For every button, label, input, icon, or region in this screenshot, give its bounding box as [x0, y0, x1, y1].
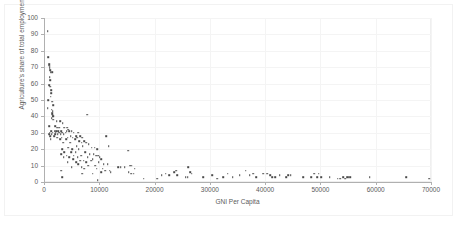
- data-point: [67, 162, 69, 164]
- data-point: [77, 132, 79, 134]
- data-point: [337, 178, 339, 180]
- data-point: [131, 165, 133, 167]
- data-point: [272, 176, 274, 178]
- data-point: [245, 170, 247, 172]
- scatter-chart: 0102030405060708090100 01000020000300004…: [0, 0, 457, 227]
- data-point: [232, 176, 234, 178]
- y-tick-mark: [41, 100, 44, 101]
- data-point: [97, 180, 99, 182]
- y-tick-label: 40: [14, 113, 38, 120]
- gridline-vertical: [431, 18, 432, 182]
- data-point: [61, 148, 63, 150]
- gridline-horizontal: [44, 18, 431, 19]
- data-point: [85, 162, 87, 164]
- data-point: [47, 107, 49, 109]
- data-point: [77, 157, 79, 159]
- data-point: [302, 176, 304, 178]
- data-point: [185, 176, 187, 178]
- y-tick-mark: [41, 18, 44, 19]
- data-point: [59, 121, 61, 123]
- data-point: [61, 176, 63, 178]
- x-tick-mark: [320, 182, 321, 185]
- data-point: [120, 166, 122, 168]
- data-point: [71, 148, 73, 150]
- data-point: [117, 166, 119, 168]
- data-point: [173, 171, 175, 173]
- data-point: [65, 132, 67, 134]
- gridline-horizontal: [44, 133, 431, 134]
- data-point: [49, 135, 51, 137]
- data-point: [314, 173, 316, 175]
- data-point: [76, 145, 78, 147]
- x-tick-label: 70000: [422, 187, 440, 194]
- data-point: [105, 170, 107, 172]
- data-point: [48, 99, 50, 101]
- plot-area: [44, 18, 431, 182]
- data-point: [227, 173, 229, 175]
- gridline-horizontal: [44, 34, 431, 35]
- data-point: [60, 170, 62, 172]
- data-point: [78, 148, 80, 150]
- data-point: [90, 160, 92, 162]
- data-point: [52, 116, 54, 118]
- gridline-vertical: [320, 18, 321, 182]
- data-point: [56, 137, 58, 139]
- data-point: [76, 137, 78, 139]
- data-point: [103, 163, 105, 165]
- data-point: [50, 89, 52, 91]
- data-point: [75, 152, 77, 154]
- x-tick-label: 50000: [311, 187, 329, 194]
- gridline-vertical: [155, 18, 156, 182]
- y-tick-label: 30: [14, 130, 38, 137]
- data-point: [63, 142, 65, 144]
- y-tick-mark: [41, 166, 44, 167]
- data-point: [57, 134, 59, 136]
- data-point: [69, 157, 71, 159]
- data-point: [92, 173, 94, 175]
- data-point: [202, 176, 204, 178]
- gridline-horizontal: [44, 116, 431, 117]
- gridline-vertical: [376, 18, 377, 182]
- data-point: [211, 175, 213, 177]
- data-point: [191, 173, 193, 175]
- data-point: [66, 155, 68, 157]
- x-tick-label: 60000: [367, 187, 385, 194]
- data-point: [65, 139, 67, 141]
- data-point: [310, 176, 312, 178]
- data-point: [91, 147, 93, 149]
- data-point: [143, 178, 145, 180]
- data-point: [318, 173, 320, 175]
- data-point: [73, 132, 75, 134]
- data-point: [74, 139, 76, 141]
- data-point: [85, 142, 87, 144]
- y-axis-title: Agriculture's share of total employment: [18, 0, 25, 114]
- y-tick-mark: [41, 116, 44, 117]
- data-point: [49, 76, 51, 78]
- data-point: [49, 80, 51, 82]
- x-tick-label: 0: [42, 187, 46, 194]
- data-point: [168, 175, 170, 177]
- data-point: [82, 145, 84, 147]
- data-point: [290, 175, 292, 177]
- data-point: [67, 137, 69, 139]
- data-point: [87, 157, 89, 159]
- data-point: [124, 166, 126, 168]
- y-tick-mark: [41, 149, 44, 150]
- x-tick-mark: [155, 182, 156, 185]
- data-point: [279, 175, 281, 177]
- data-point: [53, 135, 55, 137]
- data-point: [96, 148, 98, 150]
- data-point: [165, 173, 167, 175]
- data-point: [50, 139, 52, 141]
- data-point: [61, 137, 63, 139]
- data-point: [429, 178, 431, 180]
- data-point: [81, 137, 83, 139]
- data-point: [102, 168, 104, 170]
- data-point: [77, 163, 79, 165]
- data-point: [62, 122, 64, 124]
- data-point: [405, 176, 407, 178]
- data-point: [60, 134, 62, 136]
- data-point: [63, 134, 65, 136]
- data-point: [256, 176, 258, 178]
- y-tick-label: 10: [14, 163, 38, 170]
